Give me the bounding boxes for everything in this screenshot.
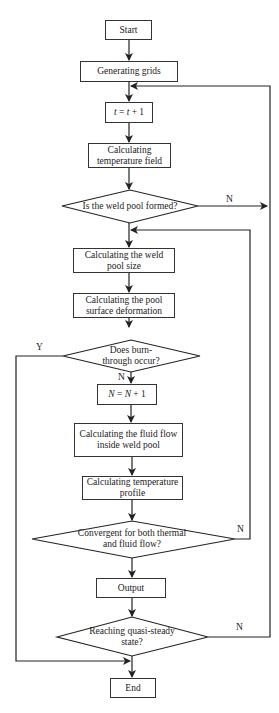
weld-pool-size-line2: pool size: [107, 261, 141, 272]
generating-grids-label: Generating grids: [97, 66, 161, 77]
output-node: Output: [96, 578, 166, 598]
fluid-flow-node: Calculating the fluid flowinside weld po…: [74, 423, 183, 457]
burn-through-decision: Does burn-through occur?: [83, 343, 179, 369]
t-increment-node: t = t + 1: [105, 102, 153, 123]
weld-pool-formed-decision: Is the weld pool formed?: [62, 198, 198, 214]
plus-one: + 1: [129, 107, 144, 117]
edge-label-pool-formed-no: N: [226, 194, 233, 204]
convergent-line2: and fluid flow?: [103, 539, 161, 550]
end-node: End: [110, 678, 156, 698]
start-node: Start: [105, 20, 152, 40]
quasi-steady-line1: Reaching quasi-steady: [89, 626, 175, 637]
surface-deformation-line1: Calculating the pool: [85, 295, 162, 306]
convergent-decision: Convergent for both thermaland fluid flo…: [62, 526, 202, 552]
equals: =: [117, 107, 127, 117]
end-label: End: [125, 683, 140, 694]
temperature-field-line2: temperature field: [97, 156, 162, 167]
convergent-line1: Convergent for both thermal: [78, 528, 186, 539]
edge-label-quasi-steady-no: N: [236, 622, 243, 632]
surface-deformation-line2: surface deformation: [86, 306, 162, 317]
edge-label-convergent-no: N: [237, 524, 244, 534]
quasi-steady-line2: state?: [121, 637, 143, 648]
generating-grids-node: Generating grids: [80, 61, 178, 82]
quasi-steady-decision: Reaching quasi-steadystate?: [82, 624, 182, 650]
temperature-profile-line2: profile: [120, 488, 145, 499]
output-label: Output: [118, 583, 144, 594]
temperature-profile-node: Calculating temperatureprofile: [82, 476, 183, 500]
fluid-flow-line1: Calculating the fluid flow: [80, 429, 178, 440]
temperature-field-line1: Calculating: [108, 145, 152, 156]
edge-label-burn-through-yes: Y: [36, 342, 43, 352]
burn-through-line2: through occur?: [102, 356, 159, 367]
temperature-field-node: Calculatingtemperature field: [88, 143, 171, 168]
weld-pool-size-line1: Calculating the weld: [85, 250, 164, 261]
edge-label-burn-through-no: N: [118, 372, 125, 382]
temperature-profile-line1: Calculating temperature: [87, 477, 179, 488]
weld-pool-size-node: Calculating the weldpool size: [73, 248, 175, 273]
fluid-flow-line2: inside weld pool: [97, 440, 160, 451]
t-increment-label: t = t + 1: [114, 107, 144, 118]
start-label: Start: [120, 25, 138, 36]
equals: =: [115, 389, 125, 399]
plus-one: + 1: [131, 389, 146, 399]
n-increment-node: N = N + 1: [97, 384, 157, 405]
n-increment-label: N = N + 1: [108, 389, 146, 400]
burn-through-line1: Does burn-: [110, 345, 152, 356]
weld-pool-formed-label: Is the weld pool formed?: [83, 201, 178, 212]
surface-deformation-node: Calculating the poolsurface deformation: [73, 293, 175, 318]
